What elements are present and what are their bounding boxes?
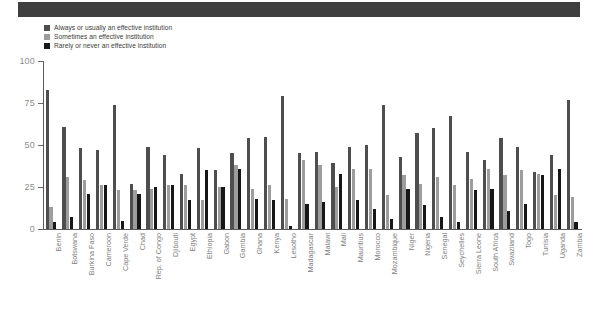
x-axis-label-text: Rep. of Congo: [154, 187, 163, 233]
bar: [167, 185, 170, 229]
bar: [66, 177, 69, 229]
x-axis-label-text: Mozambique: [390, 192, 399, 233]
bar: [554, 195, 557, 229]
bar-group: [230, 61, 245, 229]
bar: [318, 165, 321, 229]
bar: [571, 197, 574, 229]
y-tick-25: 25: [0, 187, 43, 188]
bar: [382, 105, 385, 229]
bar: [184, 185, 187, 229]
bar: [466, 152, 469, 229]
bar-group: [365, 61, 380, 229]
bar: [415, 133, 418, 229]
x-axis-label-text: Cape Verde: [121, 195, 130, 233]
bar-group: [550, 61, 565, 229]
bar: [436, 177, 439, 229]
bar-group: [46, 61, 61, 229]
y-tick-mark: [38, 103, 43, 104]
x-axis-label-text: Niger: [407, 216, 416, 233]
x-axis-label-text: South Africa: [491, 194, 500, 233]
bar-group: [415, 61, 430, 229]
y-tick-50: 50: [0, 145, 43, 146]
x-axis-label-text: Malawi: [323, 211, 332, 233]
x-axis-label-text: Zambia: [575, 209, 584, 233]
x-axis-label-text: Madagascar: [306, 193, 315, 233]
bar-group: [567, 61, 582, 229]
bar: [201, 200, 204, 229]
y-tick-75: 75: [0, 103, 43, 104]
bar: [399, 157, 402, 229]
x-axis-label-text: Lesotho: [289, 207, 298, 233]
bar-group: [264, 61, 279, 229]
bar-group: [247, 61, 262, 229]
bar: [46, 90, 49, 229]
bar-group: [399, 61, 414, 229]
x-axis-label-text: Botswana: [70, 201, 79, 233]
bar-group: [533, 61, 548, 229]
bar: [281, 96, 284, 229]
bar: [533, 172, 536, 229]
bar: [133, 190, 136, 229]
bar: [285, 199, 288, 229]
bar-group: [432, 61, 447, 229]
bar: [365, 145, 368, 229]
bar: [113, 105, 116, 229]
bar: [83, 180, 86, 229]
x-axis-label-text: Togo: [524, 217, 533, 233]
y-tick-label: 0: [1, 224, 35, 234]
bar: [302, 160, 305, 229]
bar: [487, 169, 490, 229]
y-tick-100: 100: [0, 61, 43, 62]
bar: [348, 147, 351, 229]
y-tick-label: 50: [1, 140, 35, 150]
x-axis-label-text: Uganda: [558, 208, 567, 233]
bar: [402, 175, 405, 229]
x-axis-label-text: Ghana: [255, 211, 264, 233]
x-axis-label-text: Benin: [54, 215, 63, 233]
x-axis-label-text: Morocco: [373, 205, 382, 233]
bar: [264, 137, 267, 229]
x-axis-label-text: Ethiopia: [205, 207, 214, 233]
x-axis-label-text: Nigeria: [423, 210, 432, 233]
bar: [197, 148, 200, 229]
x-axis-label-text: Gambia: [238, 208, 247, 233]
bar-group: [281, 61, 296, 229]
bar-group: [180, 61, 195, 229]
bar: [567, 100, 570, 229]
bar: [369, 169, 372, 229]
bar-group: [214, 61, 229, 229]
bar: [520, 170, 523, 229]
bar: [117, 190, 120, 229]
bar: [214, 170, 217, 229]
bar: [432, 128, 435, 229]
x-axis-label-text: Tunisia: [541, 210, 550, 233]
bar: [100, 185, 103, 229]
bar-group: [130, 61, 145, 229]
bar: [419, 184, 422, 229]
bar: [96, 150, 99, 229]
bar: [268, 185, 271, 229]
x-axis-label-text: Sierra Leone: [474, 192, 483, 233]
bar: [79, 148, 82, 229]
bar: [150, 189, 153, 229]
bar: [49, 207, 52, 229]
bar-group: [331, 61, 346, 229]
y-tick-mark: [38, 145, 43, 146]
bar-group: [315, 61, 330, 229]
x-axis-label-text: Cameroon: [104, 199, 113, 233]
y-tick-0: 0: [0, 229, 43, 230]
x-axis-label-text: Senegal: [440, 207, 449, 233]
y-tick-label: 75: [1, 98, 35, 108]
x-axis-label-text: Kenya: [272, 213, 281, 233]
bar: [247, 138, 250, 229]
y-tick-mark: [38, 61, 43, 62]
x-axis-label-text: Egypt: [188, 215, 197, 233]
bar: [352, 169, 355, 229]
x-axis-label-text: Swaziland: [507, 200, 516, 233]
bar: [130, 184, 133, 229]
y-tick-mark: [38, 187, 43, 188]
x-axis-label-text: Mali: [339, 220, 348, 233]
bar: [218, 187, 221, 229]
x-axis-label-text: Chad: [138, 216, 147, 233]
bar: [537, 174, 540, 229]
